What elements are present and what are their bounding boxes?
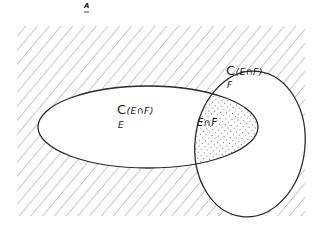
diagram-canvas [0, 0, 319, 230]
intersection-label: E∩F [197, 117, 217, 128]
complement-f-label: C(E∩F) [226, 63, 263, 78]
complement-e-label: C(E∩F) [117, 102, 154, 117]
complement-e-subscript: E [118, 120, 124, 130]
venn-diagram: A C(E∩F) E C(E∩F) F E∩F [0, 0, 319, 230]
complement-arg: (E∩F) [126, 105, 153, 116]
complement-symbol: C [226, 63, 235, 78]
complement-arg: (E∩F) [235, 66, 262, 77]
complement-f-subscript: F [227, 80, 232, 90]
complement-symbol: C [117, 102, 126, 117]
corner-mark-a: A [84, 2, 90, 10]
